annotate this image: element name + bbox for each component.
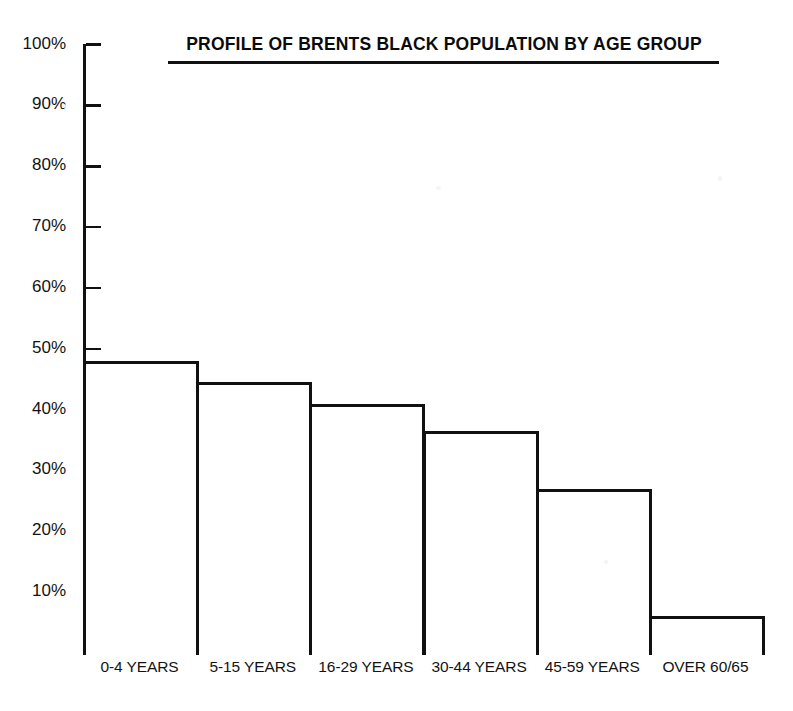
x-axis-label: 30-44 YEARS bbox=[423, 658, 536, 676]
x-axis-label: OVER 60/65 bbox=[649, 658, 762, 676]
bar bbox=[423, 431, 539, 655]
y-axis-label: 60% bbox=[0, 277, 66, 297]
x-axis-label: 16-29 YEARS bbox=[309, 658, 422, 676]
scan-speckle bbox=[718, 176, 722, 181]
bar bbox=[196, 382, 312, 655]
bar bbox=[536, 489, 652, 655]
y-axis-label: 50% bbox=[0, 338, 66, 358]
y-axis-label: 100% bbox=[0, 34, 66, 54]
y-axis-tick bbox=[86, 165, 101, 168]
bar bbox=[649, 616, 765, 655]
title-underline bbox=[168, 61, 719, 64]
bar bbox=[83, 361, 199, 655]
bar bbox=[309, 404, 425, 655]
y-axis-tick bbox=[86, 348, 101, 351]
x-axis-label: 0-4 YEARS bbox=[83, 658, 196, 676]
y-axis-label: 70% bbox=[0, 216, 66, 236]
y-axis-tick bbox=[86, 226, 101, 229]
x-axis-label: 45-59 YEARS bbox=[536, 658, 649, 676]
y-axis-label: 20% bbox=[0, 520, 66, 540]
y-axis-label: 40% bbox=[0, 399, 66, 419]
bar-chart: PROFILE OF BRENTS BLACK POPULATION BY AG… bbox=[0, 0, 793, 711]
x-axis-label: 5-15 YEARS bbox=[196, 658, 309, 676]
y-axis-label: 10% bbox=[0, 581, 66, 601]
chart-title: PROFILE OF BRENTS BLACK POPULATION BY AG… bbox=[168, 34, 720, 55]
scan-speckle bbox=[436, 186, 441, 190]
y-axis-tick bbox=[86, 287, 101, 290]
y-axis-tick bbox=[86, 43, 101, 46]
y-axis-label: 90% bbox=[0, 94, 66, 114]
y-axis-tick bbox=[86, 104, 101, 107]
y-axis-label: 30% bbox=[0, 459, 66, 479]
y-axis-label: 80% bbox=[0, 155, 66, 175]
